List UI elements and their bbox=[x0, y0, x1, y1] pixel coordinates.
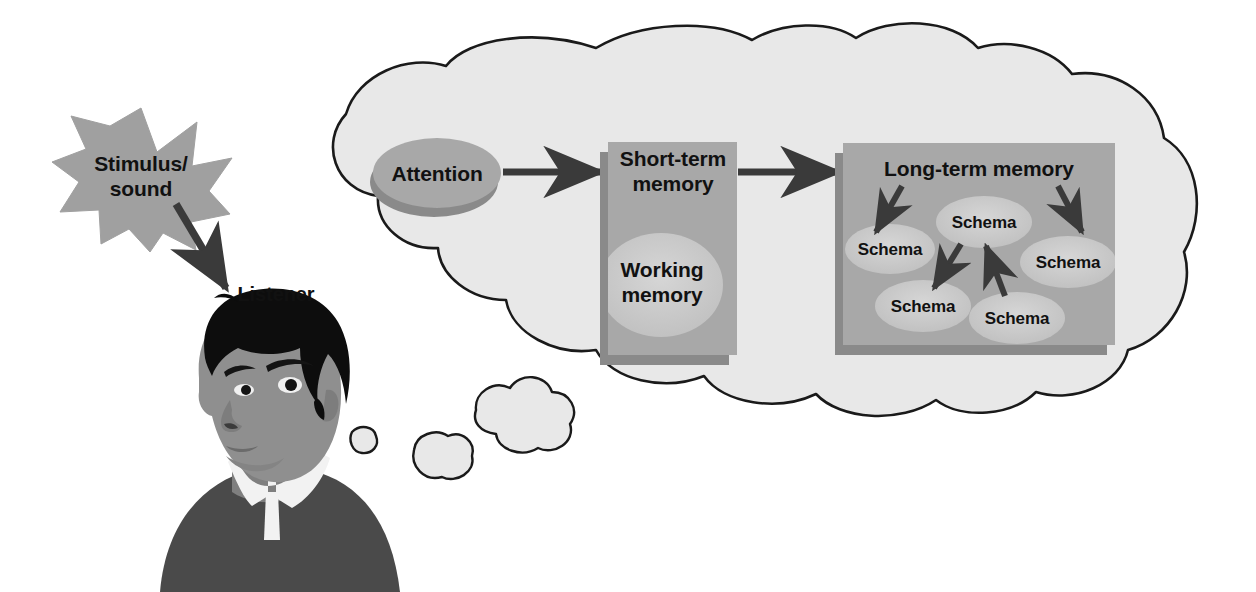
thought-bubble-small bbox=[350, 427, 377, 453]
thought-bubble-large bbox=[475, 377, 574, 452]
stimulus-starburst bbox=[52, 108, 232, 252]
schema-ellipse-bottom-left bbox=[875, 280, 971, 332]
schema-ellipse-bottom-right bbox=[969, 292, 1065, 344]
schema-ellipse-left bbox=[845, 224, 935, 274]
thought-bubble-medium bbox=[413, 432, 472, 479]
long-term-memory-box bbox=[835, 143, 1116, 355]
short-term-memory-box bbox=[599, 142, 737, 365]
attention-node bbox=[370, 138, 501, 217]
schema-ellipse-right bbox=[1020, 236, 1116, 288]
schema-ellipse-center-top bbox=[936, 196, 1032, 248]
figure-canvas: Stimulus/ sound Listener Attention Short… bbox=[0, 0, 1256, 592]
diagram-illustration bbox=[0, 0, 1256, 592]
